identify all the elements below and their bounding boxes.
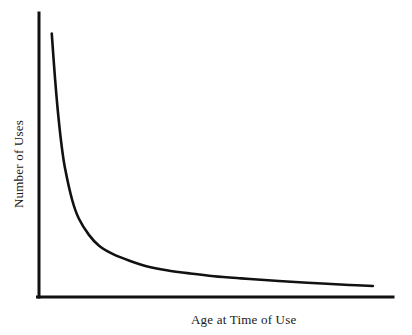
x-axis-label: Age at Time of Use [191,312,296,328]
chart-figure: Age at Time of Use Number of Uses [0,0,412,335]
y-axis-label: Number of Uses [11,120,27,208]
chart-canvas [0,0,412,335]
